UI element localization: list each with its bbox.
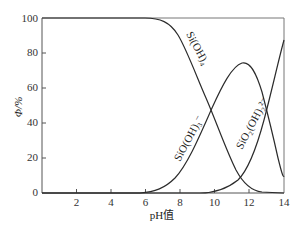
x-tick-label: 12 [244,196,255,208]
y-tick-label: 80 [27,46,39,58]
x-tick-label: 8 [177,196,183,208]
x-axis-title: pH值 [150,209,174,221]
y-ticks [42,53,46,158]
y-tick-label: 0 [33,186,39,198]
label-sio-oh3: SiO(OH)₃⁻ [171,113,206,163]
x-tick-label: 4 [108,196,114,208]
y-tick-label: 100 [22,12,39,24]
y-axis-title: Φ/% [12,97,24,118]
x-tick-label: 10 [209,196,221,208]
y-tick-labels: 0 20 40 60 80 100 [22,12,39,198]
x-tick-label: 2 [74,196,80,208]
y-tick-label: 40 [27,116,39,128]
y-tick-label: 60 [27,81,39,93]
y-tick-label: 20 [27,151,39,163]
chart: 0 20 40 60 80 100 2 4 6 8 10 12 14 pH值 Φ… [0,0,302,229]
label-si-oh4: Si(OH)₄ [183,29,212,67]
label-sio2-oh2: SiO₂(OH)₂²⁻ [233,95,271,152]
x-tick-label: 6 [143,196,149,208]
x-tick-label: 14 [279,196,291,208]
x-tick-labels: 2 4 6 8 10 12 14 [74,196,290,208]
